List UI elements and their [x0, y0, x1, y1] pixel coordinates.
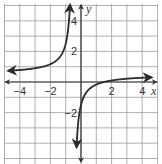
y-axis-label: y	[85, 2, 92, 16]
x-tick-label: −4	[14, 85, 27, 97]
axes	[6, 5, 157, 162]
x-tick-label: −2	[44, 85, 57, 97]
x-tick-label: 4	[139, 85, 145, 97]
function-curves	[8, 5, 151, 147]
left-branch-curve	[8, 5, 70, 71]
x-axis-label: x	[150, 84, 157, 98]
y-tick-label: 2	[71, 45, 77, 57]
x-tick-label: 2	[109, 85, 115, 97]
y-tick-label: −2	[64, 107, 77, 119]
y-tick-label: 4	[71, 15, 77, 27]
rational-function-graph: −4−22442−2xy	[0, 0, 162, 164]
